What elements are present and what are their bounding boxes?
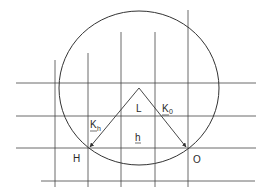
svg-text:0: 0 [169, 108, 173, 115]
label-h-vector: h [135, 132, 141, 143]
label-l: L [136, 103, 142, 114]
svg-text:h: h [135, 132, 141, 143]
svg-text:K: K [90, 119, 97, 130]
label-k-h: K h [90, 119, 101, 132]
ewald-diagram: L K 0 K h h H O [0, 0, 267, 196]
label-h-point: H [73, 153, 80, 164]
vector-k-0 [139, 88, 186, 147]
lattice-grid [16, 10, 256, 187]
vector-k-h [90, 88, 139, 147]
label-o-origin: O [193, 154, 201, 165]
label-k-0: K 0 [162, 103, 173, 115]
svg-text:K: K [162, 103, 169, 114]
svg-text:h: h [97, 125, 101, 132]
